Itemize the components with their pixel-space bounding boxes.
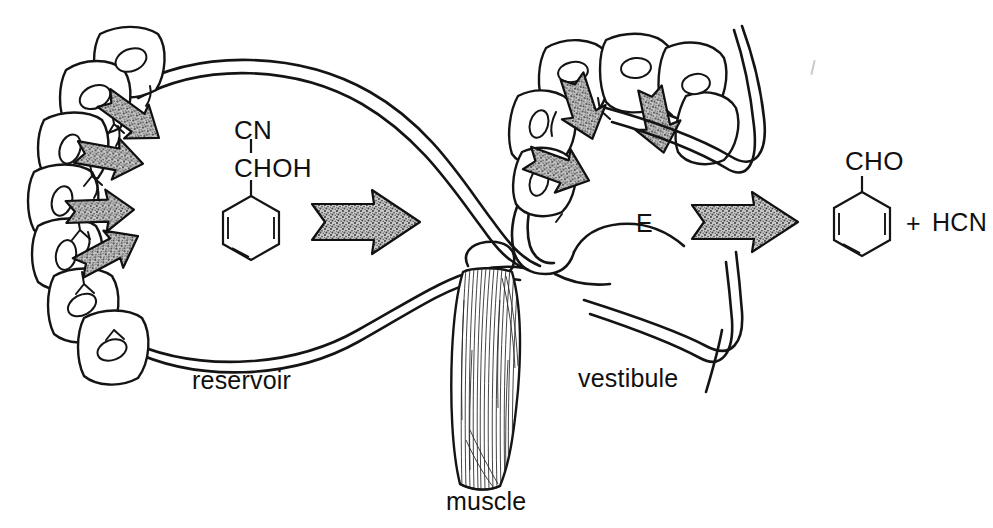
chem-label-choh: CHOH bbox=[234, 155, 312, 181]
muscle-bundle bbox=[451, 242, 520, 490]
enzyme-label: E bbox=[636, 211, 653, 236]
gland-cell-cluster-right bbox=[509, 34, 738, 222]
label-vestibule: vestibule bbox=[578, 366, 678, 391]
label-muscle: muscle bbox=[446, 489, 526, 514]
gland-diagram bbox=[0, 0, 993, 528]
figure-canvas: CN CHOH CHO + HCN E reservoir vestibule … bbox=[0, 0, 993, 528]
chem-label-cn: CN bbox=[234, 117, 272, 143]
chem-label-cho: CHO bbox=[845, 148, 904, 174]
chem-label-hcn: HCN bbox=[932, 210, 987, 235]
label-reservoir: reservoir bbox=[192, 368, 291, 393]
flow-arrow-product bbox=[692, 192, 798, 252]
structure-benzaldehyde bbox=[834, 176, 890, 256]
flow-arrow-reservoir bbox=[312, 190, 420, 254]
chem-plus-sign: + bbox=[906, 211, 921, 236]
